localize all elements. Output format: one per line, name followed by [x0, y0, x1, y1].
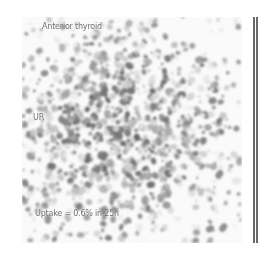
- scintigraphy-image: Anterior thyroid UR Uptake = 0.6% in 25h: [22, 17, 242, 243]
- side-marker: UR: [33, 113, 44, 122]
- frame-bar-right: [256, 17, 258, 243]
- frame-bar-left: [253, 17, 255, 243]
- view-label: Anterior thyroid: [42, 22, 102, 31]
- uptake-label: Uptake = 0.6% in 25h: [35, 209, 119, 218]
